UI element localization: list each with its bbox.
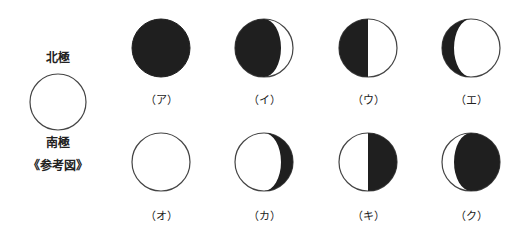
phase-label-ki: （キ） [338, 207, 398, 223]
phase-label-o: （オ） [131, 207, 191, 223]
moon-phase-diagram [0, 0, 528, 233]
phase-label-ka: （カ） [234, 207, 294, 223]
moon-phase-ku [442, 133, 500, 191]
moon-phase-a [132, 19, 190, 77]
moon-phase-e [442, 19, 500, 77]
phase-label-i: （イ） [234, 91, 294, 107]
reference-moon-circle [30, 74, 86, 130]
phase-label-u: （ウ） [338, 91, 398, 107]
moon-phase-ki [339, 133, 397, 191]
moon-phase-ka [235, 133, 293, 191]
phase-label-ku: （ク） [441, 207, 501, 223]
phase-label-e: （エ） [441, 91, 501, 107]
moon-phase-o [132, 133, 190, 191]
phase-label-a: （ア） [131, 91, 191, 107]
moon-phase-u [339, 19, 397, 77]
moon-phase-i [235, 19, 293, 77]
